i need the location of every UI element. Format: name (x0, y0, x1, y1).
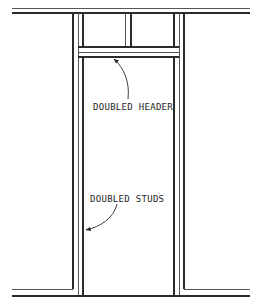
cripple-stud (125, 13, 131, 47)
top-plate (12, 8, 250, 13)
header-leader-arrow (114, 59, 128, 99)
sole-plate (12, 289, 250, 296)
doubled-header (78, 47, 179, 57)
framing-drawing: DOUBLED HEADER DOUBLED STUDS (0, 0, 254, 302)
framing-diagram: DOUBLED HEADER DOUBLED STUDS (0, 0, 254, 302)
left-doubled-studs (73, 13, 83, 296)
studs-leader-arrow (86, 204, 117, 230)
doubled-studs-label: DOUBLED STUDS (90, 194, 164, 204)
doubled-header-label: DOUBLED HEADER (93, 102, 173, 112)
right-doubled-studs (174, 13, 184, 296)
